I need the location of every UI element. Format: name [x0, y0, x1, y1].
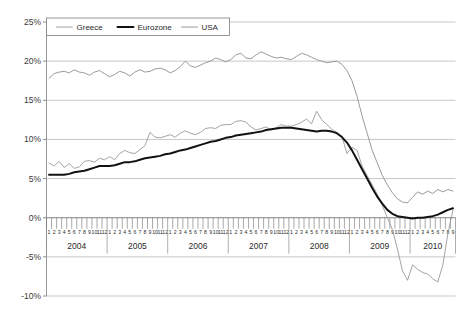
x-axis-month-label: 9 [209, 229, 212, 235]
legend-label-usa: USA [202, 23, 219, 32]
x-axis-month-label: 6 [73, 229, 76, 235]
y-axis-tick-label: 10% [24, 134, 41, 144]
x-axis-month-label: 2 [295, 229, 298, 235]
x-axis-month-label: 1 [108, 229, 111, 235]
y-axis-tick-label: -10% [21, 291, 41, 301]
x-axis-month-label: 4 [366, 229, 369, 235]
x-axis-year-label: 2006 [189, 241, 208, 251]
x-axis-month-label: 2 [174, 229, 177, 235]
x-axis-month-label: 8 [83, 229, 86, 235]
x-axis-month-label: 9 [270, 229, 273, 235]
x-axis-month-label: 5 [250, 229, 253, 235]
x-axis-month-label: 3 [118, 229, 121, 235]
x-axis-month-label: 2 [356, 229, 359, 235]
x-axis-month-label: 7 [381, 229, 384, 235]
series-line-eurozone [49, 128, 453, 219]
y-axis-tick-label: 5% [29, 174, 42, 184]
x-axis-month-label: 1 [48, 229, 51, 235]
y-axis-tick-label: 20% [24, 56, 41, 66]
y-axis-tick-label: -5% [26, 252, 42, 262]
x-axis-month-label: 7 [320, 229, 323, 235]
x-axis-month-label: 1 [351, 229, 354, 235]
x-axis-month-label: 12 [405, 229, 411, 235]
x-axis-year-label: 2009 [370, 241, 389, 251]
x-axis-month-label: 5 [431, 229, 434, 235]
x-axis-month-label: 7 [260, 229, 263, 235]
x-axis-month-label: 4 [426, 229, 429, 235]
x-axis-month-label: 9 [330, 229, 333, 235]
x-axis-month-label: 9 [149, 229, 152, 235]
x-axis-month-label: 7 [199, 229, 202, 235]
x-axis-month-label: 6 [133, 229, 136, 235]
x-axis-month-label: 5 [68, 229, 71, 235]
x-axis-month-label: 7 [441, 229, 444, 235]
x-axis-month-label: 12 [102, 229, 108, 235]
x-axis-month-label: 6 [376, 229, 379, 235]
x-axis-month-label: 2 [416, 229, 419, 235]
x-axis-month-label: 12 [162, 229, 168, 235]
x-axis-month-label: 3 [421, 229, 424, 235]
y-axis-tick-label: 25% [24, 17, 41, 27]
x-axis-month-label: 2 [113, 229, 116, 235]
x-axis-month-label: 4 [63, 229, 66, 235]
x-axis-month-label: 4 [184, 229, 187, 235]
x-axis-month-label: 1 [229, 229, 232, 235]
legend-label-greece: Greece [77, 23, 104, 32]
x-axis-month-label: 9 [88, 229, 91, 235]
x-axis-month-label: 4 [305, 229, 308, 235]
x-axis-month-label: 1 [411, 229, 414, 235]
x-axis-month-label: 1 [169, 229, 172, 235]
x-axis-year-label: 2004 [67, 241, 86, 251]
x-axis-month-label: 2 [53, 229, 56, 235]
x-axis-month-label: 12 [223, 229, 229, 235]
y-axis-tick-label: 0% [29, 213, 42, 223]
x-axis-month-label: 1 [290, 229, 293, 235]
x-axis-year-label: 2008 [310, 241, 329, 251]
x-axis-year-label: 2007 [249, 241, 268, 251]
y-axis-tick-label: 15% [24, 95, 41, 105]
x-axis-month-label: 2 [234, 229, 237, 235]
x-axis-month-label: 8 [144, 229, 147, 235]
x-axis-year-label: 2010 [423, 241, 442, 251]
legend-label-eurozone: Eurozone [138, 23, 173, 32]
x-axis-month-label: 8 [204, 229, 207, 235]
x-axis-month-label: 5 [371, 229, 374, 235]
x-axis-month-label: 3 [179, 229, 182, 235]
x-axis-month-label: 5 [128, 229, 131, 235]
x-axis-month-label: 12 [283, 229, 289, 235]
x-axis-year-label: 2005 [128, 241, 147, 251]
series-line-greece [49, 111, 453, 282]
x-axis-month-label: 7 [138, 229, 141, 235]
x-axis-month-label: 6 [315, 229, 318, 235]
line-chart: 25%20%15%10%5%0%-5%-10%12345678910111212… [0, 0, 468, 319]
x-axis-month-label: 6 [436, 229, 439, 235]
x-axis-month-label: 4 [245, 229, 248, 235]
x-axis-month-label: 6 [194, 229, 197, 235]
x-axis-month-label: 6 [255, 229, 258, 235]
x-axis-month-label: 4 [123, 229, 126, 235]
x-axis-month-label: 8 [325, 229, 328, 235]
x-axis-month-label: 3 [58, 229, 61, 235]
x-axis-month-label: 3 [361, 229, 364, 235]
x-axis-month-label: 3 [300, 229, 303, 235]
x-axis-month-label: 12 [344, 229, 350, 235]
x-axis-month-label: 3 [239, 229, 242, 235]
x-axis-month-label: 8 [265, 229, 268, 235]
x-axis-month-label: 8 [386, 229, 389, 235]
x-axis-month-label: 7 [78, 229, 81, 235]
chart-container: 25%20%15%10%5%0%-5%-10%12345678910111212… [0, 0, 468, 319]
x-axis-month-label: 5 [310, 229, 313, 235]
x-axis-month-label: 5 [189, 229, 192, 235]
x-axis-month-label: 9 [452, 229, 455, 235]
